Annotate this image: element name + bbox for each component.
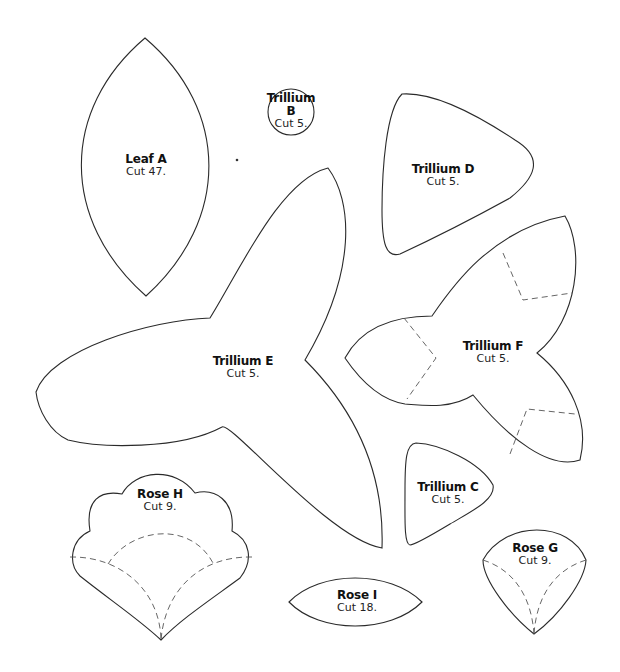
trillium-e-label: Trillium E Cut 5. <box>213 355 274 380</box>
rose-h-label: Rose H Cut 9. <box>137 488 183 513</box>
stray-dot <box>236 159 239 162</box>
trillium-d-label: Trillium D Cut 5. <box>412 163 474 188</box>
trillium-d-cut: Cut 5. <box>412 176 474 188</box>
rose-i-cut: Cut 18. <box>337 602 377 614</box>
trillium-e-cut: Cut 5. <box>213 368 274 380</box>
trillium-e-shape <box>36 168 382 548</box>
trillium-c-label: Trillium C Cut 5. <box>417 481 478 506</box>
trillium-b-cut: Cut 5. <box>267 118 316 130</box>
trillium-c-cut: Cut 5. <box>417 494 478 506</box>
leaf-a-label: Leaf A Cut 47. <box>125 153 166 178</box>
rose-i-label: Rose I Cut 18. <box>337 589 377 614</box>
trillium-b-label: Trillium B Cut 5. <box>267 92 316 130</box>
rose-g-cut: Cut 9. <box>512 555 558 567</box>
leaf-a-cut: Cut 47. <box>125 166 166 178</box>
rose-h-cut: Cut 9. <box>137 501 183 513</box>
trillium-f-cut: Cut 5. <box>463 353 524 365</box>
rose-g-label: Rose G Cut 9. <box>512 542 558 567</box>
trillium-f-label: Trillium F Cut 5. <box>463 340 524 365</box>
